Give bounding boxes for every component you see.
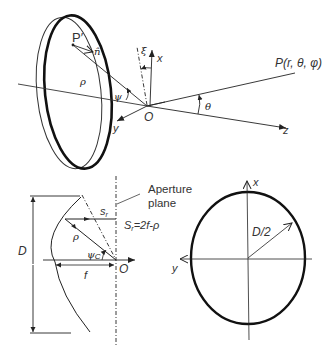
aperture-leader <box>117 194 140 204</box>
label-aperture-line1: Aperture <box>148 183 192 195</box>
label-side-rho: ρ <box>72 231 79 242</box>
label-aperture-line2: plane <box>148 197 176 209</box>
label-n-hat: n̂ <box>94 46 100 57</box>
aperture-x-axis <box>247 181 249 340</box>
label-d: D <box>18 244 27 258</box>
label-psi-c: ψC <box>87 249 101 261</box>
sr-arrowhead <box>84 217 90 221</box>
reflector-side-view: D ρ sr ψC f O Aperture plane Sr=2f-ρ <box>18 176 192 346</box>
label-xi: ξ <box>141 45 147 56</box>
x-axis <box>150 50 152 106</box>
label-p-prime: P′ <box>72 30 84 45</box>
y-axis <box>117 106 147 121</box>
label-aperture-x: x <box>252 176 259 188</box>
label-radius: D/2 <box>252 225 271 239</box>
label-theta: θ <box>205 101 211 112</box>
antenna-geometry-figure: P′ n̂ ρ ψ ξ x y O θ z P(r, θ, φ) <box>0 0 330 358</box>
label-side-origin: O <box>119 262 128 276</box>
label-rho: ρ <box>79 76 86 87</box>
label-z-axis: z <box>282 124 289 136</box>
label-sr: sr <box>100 205 109 218</box>
label-f: f <box>84 269 88 281</box>
label-psi: ψ <box>114 91 122 102</box>
label-aperture-y: y <box>171 262 179 274</box>
reflector-3d-view: P′ n̂ ρ ψ ξ x y O θ z P(r, θ, φ) <box>18 12 322 172</box>
aperture-front-view: x y D/2 <box>171 176 312 340</box>
label-y-axis: y <box>112 122 120 134</box>
xi-angle-arc <box>141 68 151 69</box>
label-origin: O <box>144 110 153 124</box>
label-far-point: P(r, θ, φ) <box>275 56 322 70</box>
theta-angle-arc <box>198 95 200 114</box>
label-sr-equation: Sr=2f-ρ <box>124 219 159 232</box>
label-x-axis: x <box>156 52 163 64</box>
z-axis <box>147 106 286 128</box>
line-to-far-point <box>147 73 295 106</box>
